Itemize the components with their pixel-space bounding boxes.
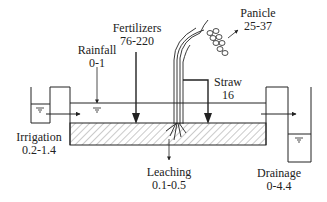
panicle-arrow: [228, 30, 238, 38]
panicle-label: Panicle 25-37: [238, 7, 278, 33]
straw-label: Straw 16: [212, 76, 244, 102]
fertilizer-arrowhead: [132, 113, 140, 124]
panicle-grains-icon: [207, 29, 228, 56]
panicle-value: 25-37: [238, 20, 278, 33]
leaching-label: Leaching 0.1-0.5: [144, 166, 194, 192]
drainage-value: 0-4.4: [254, 180, 304, 193]
leaching-value: 0.1-0.5: [144, 179, 194, 192]
rainfall-label: Rainfall 0-1: [76, 44, 118, 70]
soil-layer: [70, 123, 266, 145]
rainfall-value: 0-1: [76, 57, 118, 70]
straw-arrowhead: [204, 113, 212, 124]
drainage-label: Drainage 0-4.4: [254, 167, 304, 193]
straw-arrow: [183, 80, 208, 113]
water-level-icon: [295, 138, 303, 142]
irrigation-value: 0.2-1.4: [14, 144, 64, 157]
water-level-icon: [36, 108, 44, 112]
irrigation-label: Irrigation 0.2-1.4: [14, 131, 64, 157]
drainage-tank: [266, 87, 311, 162]
water-level-icon: [93, 108, 101, 112]
straw-value: 16: [212, 89, 244, 102]
fertilizers-value: 76-220: [112, 35, 162, 48]
fertilizers-label: Fertilizers 76-220: [112, 22, 162, 48]
